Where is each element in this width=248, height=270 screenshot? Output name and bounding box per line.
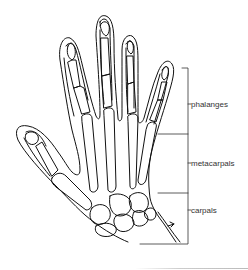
bottom-divider <box>135 268 248 269</box>
carpals-bones <box>90 193 156 237</box>
label-phalanges: phalanges <box>191 100 228 110</box>
wrist-lines <box>158 212 180 242</box>
hand-bones-diagram <box>0 0 248 270</box>
label-metacarpals: metacarpals <box>191 159 235 169</box>
label-carpals: carpals <box>191 206 217 216</box>
